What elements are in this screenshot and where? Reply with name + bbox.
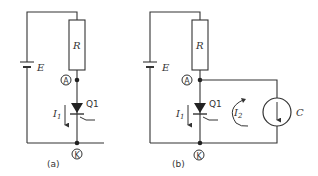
current1-label: I1: [175, 108, 184, 121]
anode-label: A: [63, 77, 69, 86]
circuit-diagram: E R A Q1 I1 K (a) E: [0, 0, 318, 176]
node-dot: [198, 141, 203, 146]
battery-icon: [143, 62, 157, 67]
resistor-label: R: [195, 40, 204, 51]
wire-branch-top: [200, 80, 277, 98]
current2-label: I2: [233, 107, 243, 120]
caption-b: (b): [172, 159, 185, 169]
current-source-icon: [263, 98, 291, 126]
current-label: I1: [52, 108, 61, 121]
thyristor-label: Q1: [209, 99, 222, 109]
anode-label: A: [184, 77, 190, 86]
cathode-label: K: [196, 152, 202, 161]
source-label: C: [296, 107, 304, 118]
circuit-b: E R A C Q1 I1 I2 K (b): [143, 12, 304, 169]
node-dot: [75, 141, 80, 146]
caption-a: (a): [47, 159, 60, 169]
battery-label: E: [36, 62, 45, 73]
wire-bottom-b: [150, 126, 277, 143]
node-dot: [75, 78, 80, 83]
battery-label: E: [161, 62, 170, 73]
circuit-a: E R A Q1 I1 K (a): [20, 12, 104, 169]
cathode-label: K: [74, 151, 80, 160]
thyristor-label: Q1: [86, 99, 99, 109]
battery-icon: [20, 62, 34, 67]
resistor-label: R: [72, 40, 81, 51]
